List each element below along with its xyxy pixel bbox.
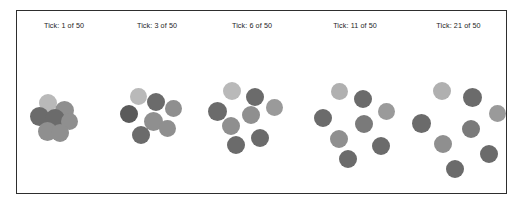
particle-dot bbox=[462, 120, 480, 138]
particle-dot bbox=[463, 88, 482, 107]
particle-dot bbox=[165, 100, 182, 117]
particle-dot bbox=[223, 82, 241, 100]
simulation-canvas-frame: Tick: 1 of 50Tick: 3 of 50Tick: 6 of 50T… bbox=[16, 10, 507, 194]
particle-dot bbox=[266, 99, 283, 116]
particle-dot bbox=[222, 117, 240, 135]
tick-panel: Tick: 1 of 50 bbox=[17, 11, 111, 193]
particle-dot bbox=[51, 124, 69, 142]
particle-stage bbox=[17, 11, 111, 193]
particle-stage bbox=[301, 11, 409, 193]
particle-dot bbox=[120, 105, 138, 123]
particle-dot bbox=[130, 88, 147, 105]
simulation-screenshot: Tick: 1 of 50Tick: 3 of 50Tick: 6 of 50T… bbox=[0, 0, 521, 210]
particle-dot bbox=[489, 105, 506, 122]
tick-panel: Tick: 11 of 50 bbox=[301, 11, 409, 193]
particle-dot bbox=[434, 135, 452, 153]
particle-dot bbox=[372, 137, 390, 155]
particle-dot bbox=[446, 160, 464, 178]
particle-dot bbox=[242, 106, 260, 124]
tick-panel: Tick: 6 of 50 bbox=[203, 11, 301, 193]
particle-dot bbox=[159, 120, 176, 137]
tick-panel: Tick: 21 of 50 bbox=[409, 11, 507, 193]
particle-dot bbox=[132, 126, 150, 144]
particle-dot bbox=[480, 145, 498, 163]
particle-dot bbox=[246, 88, 264, 106]
particle-dot bbox=[355, 115, 373, 133]
particle-dot bbox=[330, 130, 348, 148]
particle-dot bbox=[354, 90, 372, 108]
particle-dot bbox=[227, 136, 245, 154]
particle-dot bbox=[331, 83, 348, 100]
particle-stage bbox=[409, 11, 507, 193]
particle-dot bbox=[433, 82, 451, 100]
particle-dot bbox=[339, 150, 357, 168]
tick-panel: Tick: 3 of 50 bbox=[111, 11, 203, 193]
particle-stage bbox=[111, 11, 203, 193]
particle-dot bbox=[147, 93, 165, 111]
particle-dot bbox=[314, 109, 332, 127]
particle-dot bbox=[251, 129, 269, 147]
particle-stage bbox=[203, 11, 301, 193]
particle-dot bbox=[378, 103, 395, 120]
particle-dot bbox=[412, 114, 431, 133]
particle-dot bbox=[208, 102, 227, 121]
